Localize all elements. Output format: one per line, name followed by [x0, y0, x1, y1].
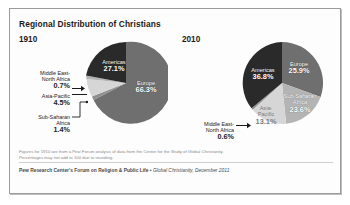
- callout-mena-2010-value: 0.6%: [182, 133, 234, 141]
- chart-year-1910: 1910: [19, 35, 37, 44]
- leader-line-mena-2010: [236, 122, 252, 129]
- infographic-card: Regional Distribution of Christians 1910…: [9, 8, 341, 194]
- pie-label-europe-2010: Europe 25.9%: [282, 61, 316, 75]
- pie-label-ssa-2010-value: 23.6%: [282, 106, 318, 114]
- chart-year-2010: 2010: [182, 35, 200, 44]
- pie-label-ap-2010-line1: Asia-: [260, 105, 273, 111]
- callout-label-mena-2010: Middle East- North Africa 0.6%: [182, 121, 234, 142]
- footnote-line-1: Figures for 1910 are from a Pew Forum an…: [19, 149, 319, 154]
- pie-label-americas-1910: Americas 27.1%: [94, 59, 134, 73]
- callout-ssa-1910-value: 1.4%: [18, 126, 70, 134]
- attribution: Pew Research Center's Forum on Religion …: [19, 168, 229, 173]
- callout-label-mena-1910: Middle East- North Africa 0.7%: [18, 70, 70, 91]
- attribution-report: Global Christianity: [153, 168, 192, 173]
- footer-divider: [19, 162, 333, 163]
- pie-label-asia-pacific-2010: Asia- Pacific 13.1%: [253, 105, 279, 126]
- pie-label-sub-saharan-africa-2010: Sub-Saharan Africa 23.6%: [282, 93, 318, 114]
- pie-label-europe-1910: Europe 66.3%: [128, 80, 164, 94]
- leader-line-sub-saharan-africa-1910: [72, 99, 88, 119]
- callout-mena-1910-line1: Middle East-: [40, 70, 70, 76]
- footnote-line-2: Percentages may not add to 100 due to ro…: [19, 155, 319, 160]
- pie-label-europe-2010-value: 25.9%: [282, 67, 316, 75]
- callout-mena-1910-value: 0.7%: [18, 82, 70, 90]
- pie-label-ap-2010-value: 13.1%: [253, 118, 279, 126]
- callout-label-asia-pacific-1910: Asia-Pacific 4.5%: [18, 93, 70, 108]
- attribution-org: Pew Research Center's Forum on Religion …: [19, 168, 148, 173]
- callout-mena-2010-line1: Middle East-: [204, 121, 234, 127]
- pie-label-americas-1910-value: 27.1%: [94, 65, 134, 73]
- callout-ssa-1910-line1: Sub-Saharan: [38, 114, 70, 120]
- pie-label-americas-2010-value: 36.8%: [244, 73, 282, 81]
- page-title: Regional Distribution of Christians: [19, 19, 161, 29]
- attribution-date: , December 2011: [192, 168, 229, 173]
- pie-label-americas-2010: Americas 36.8%: [244, 67, 282, 81]
- pie-label-europe-1910-value: 66.3%: [128, 86, 164, 94]
- leader-line-asia-pacific-1910: [72, 91, 88, 98]
- callout-asia-pacific-1910-value: 4.5%: [18, 99, 70, 107]
- callout-label-sub-saharan-africa-1910: Sub-Saharan Africa 1.4%: [18, 114, 70, 135]
- screenshot-frame: Regional Distribution of Christians 1910…: [0, 0, 350, 205]
